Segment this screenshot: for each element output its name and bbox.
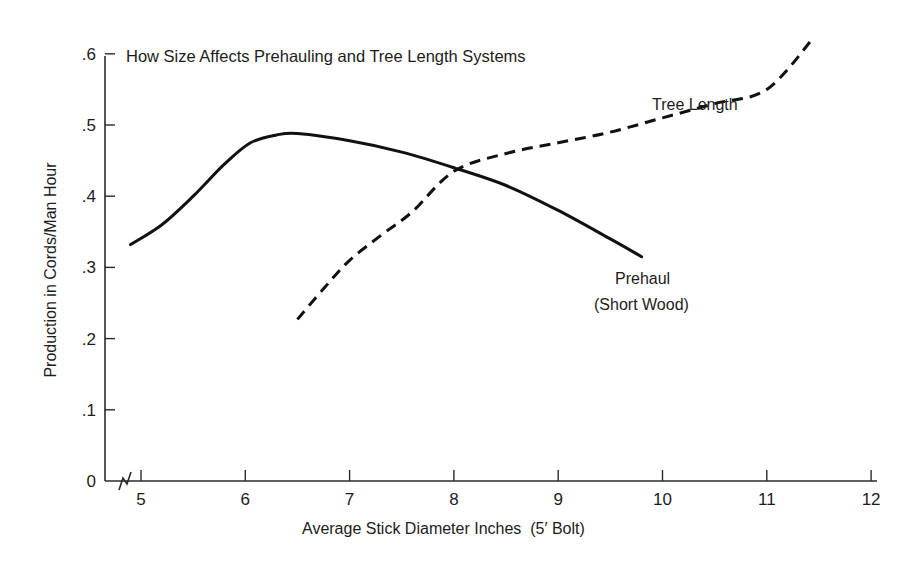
x-tick-label: 7 bbox=[345, 490, 354, 509]
x-ticks: 56789101112 bbox=[136, 470, 880, 509]
prehaul-label: Prehaul bbox=[615, 270, 670, 287]
y-tick-label: 0 bbox=[87, 472, 96, 491]
y-tick-label: .2 bbox=[82, 330, 96, 349]
y-tick-label: .6 bbox=[82, 45, 96, 64]
chart-title: How Size Affects Prehauling and Tree Len… bbox=[126, 47, 526, 65]
chart: 0.1.2.3.4.5.6 56789101112 How Size Affec… bbox=[0, 0, 910, 565]
y-tick-label: .5 bbox=[82, 116, 96, 135]
x-tick-label: 5 bbox=[136, 490, 145, 509]
tree-length-curve bbox=[297, 37, 813, 319]
prehaul-sublabel: (Short Wood) bbox=[594, 296, 689, 313]
y-tick-label: .4 bbox=[82, 187, 96, 206]
prehaul-curve bbox=[131, 133, 642, 257]
x-tick-label: 12 bbox=[862, 490, 881, 509]
x-tick-label: 9 bbox=[553, 490, 562, 509]
y-axis-label: Production in Cords/Man Hour bbox=[42, 162, 59, 378]
x-tick-label: 10 bbox=[653, 490, 672, 509]
tree-length-label: Tree Length bbox=[652, 96, 738, 113]
x-axis-label: Average Stick Diameter Inches (5′ Bolt) bbox=[302, 520, 585, 537]
y-tick-label: .3 bbox=[82, 258, 96, 277]
x-tick-label: 6 bbox=[241, 490, 250, 509]
axes bbox=[105, 56, 877, 490]
y-ticks: 0.1.2.3.4.5.6 bbox=[82, 45, 115, 491]
y-tick-label: .1 bbox=[82, 401, 96, 420]
x-tick-label: 8 bbox=[449, 490, 458, 509]
x-tick-label: 11 bbox=[758, 490, 776, 509]
